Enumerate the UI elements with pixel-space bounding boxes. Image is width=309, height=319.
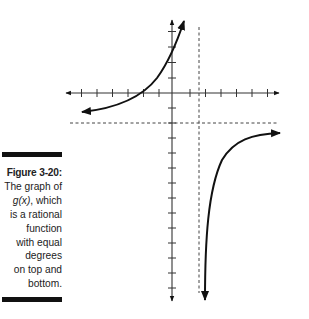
caption-bottom-rule [2,297,62,302]
y-axis [168,20,176,301]
caption-line-5: with equal [16,237,62,248]
caption-line-8: bottom. [28,278,62,289]
caption-line-7: on top and [14,264,62,275]
caption-func-name: g(x) [13,195,31,206]
curve-left-branch [82,21,184,112]
figure-label: Figure 3-20: [2,166,62,180]
caption-line-6: degrees [25,250,62,261]
figure-caption-sidebar: Figure 3-20: The graph of g(x), which is… [2,152,62,291]
figure-caption: Figure 3-20: The graph of g(x), which is… [2,166,62,291]
caption-line-3: is a rational [10,209,62,220]
caption-line-2: , which [30,195,62,206]
caption-line-4: function [26,223,62,234]
caption-line-1: The graph of [4,181,62,192]
caption-top-rule [2,152,62,157]
curve-right-branch [205,133,280,300]
